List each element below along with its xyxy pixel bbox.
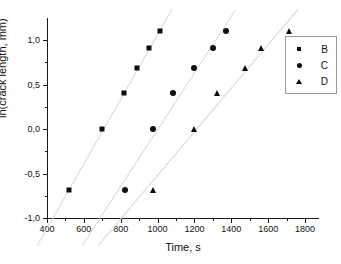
legend-item-d[interactable]: D <box>286 73 336 89</box>
data-point-c <box>150 126 156 132</box>
x-tick-minor <box>102 219 103 221</box>
data-point-c <box>223 28 229 34</box>
x-tick <box>84 219 85 223</box>
data-point-c <box>122 187 128 193</box>
circle-marker-icon <box>292 63 306 68</box>
y-tick <box>43 129 47 130</box>
data-point-b <box>158 29 163 34</box>
data-point-b <box>67 188 72 193</box>
trendline-c <box>82 9 236 245</box>
data-point-b <box>135 65 140 70</box>
x-tick-minor <box>213 219 214 221</box>
x-tick-minor <box>250 219 251 221</box>
x-tick-label: 1400 <box>221 224 241 234</box>
y-tick <box>43 85 47 86</box>
y-axis-title: ln(crack length, mm) <box>0 18 8 118</box>
x-tick-minor <box>139 219 140 221</box>
data-point-b <box>100 127 105 132</box>
y-tick-label: -0,5 <box>24 169 40 179</box>
x-tick-label: 800 <box>113 224 128 234</box>
chart-legend: BCD <box>285 36 337 94</box>
x-tick-label: 1800 <box>295 224 315 234</box>
y-tick <box>43 174 47 175</box>
x-tick <box>158 219 159 223</box>
scatter-chart-figure: 40060080010001200140016001800-1,0-0,50,0… <box>0 0 341 264</box>
x-tick <box>47 219 48 223</box>
y-tick-label: 0,0 <box>27 124 40 134</box>
data-point-c <box>191 65 197 71</box>
triangle-marker-icon <box>292 79 306 84</box>
x-tick-label: 400 <box>39 224 54 234</box>
legend-label: D <box>306 76 330 87</box>
y-tick <box>43 218 47 219</box>
x-tick-label: 600 <box>76 224 91 234</box>
data-point-c <box>170 90 176 96</box>
data-point-d <box>258 45 264 51</box>
legend-label: C <box>306 60 330 71</box>
x-tick-label: 1200 <box>184 224 204 234</box>
y-tick-minor <box>45 196 47 197</box>
x-tick-label: 1000 <box>148 224 168 234</box>
y-tick-minor <box>45 62 47 63</box>
legend-item-c[interactable]: C <box>286 57 336 73</box>
data-point-d <box>150 187 156 193</box>
x-tick-label: 1600 <box>258 224 278 234</box>
x-tick-minor <box>65 219 66 221</box>
data-point-b <box>122 91 127 96</box>
x-tick <box>121 219 122 223</box>
y-axis-line <box>47 18 48 219</box>
x-tick-minor <box>176 219 177 221</box>
y-tick-label: -1,0 <box>24 213 40 223</box>
x-tick <box>194 219 195 223</box>
x-tick <box>231 219 232 223</box>
trendline-d <box>98 9 298 245</box>
x-tick <box>305 219 306 223</box>
y-tick-label: 0,5 <box>27 80 40 90</box>
y-tick-minor <box>45 151 47 152</box>
y-tick-minor <box>45 107 47 108</box>
y-tick <box>43 40 47 41</box>
data-point-d <box>214 90 220 96</box>
data-point-d <box>191 126 197 132</box>
x-axis-line <box>47 218 319 219</box>
trendline-b <box>37 9 172 245</box>
x-tick <box>268 219 269 223</box>
x-tick-minor <box>287 219 288 221</box>
data-point-d <box>242 65 248 71</box>
data-point-b <box>147 46 152 51</box>
square-marker-icon <box>292 47 306 51</box>
y-tick-label: 1,0 <box>27 35 40 45</box>
data-point-d <box>286 28 292 34</box>
data-point-c <box>210 45 216 51</box>
legend-item-b[interactable]: B <box>286 41 336 57</box>
legend-label: B <box>306 44 330 55</box>
x-axis-title: Time, s <box>47 241 319 253</box>
